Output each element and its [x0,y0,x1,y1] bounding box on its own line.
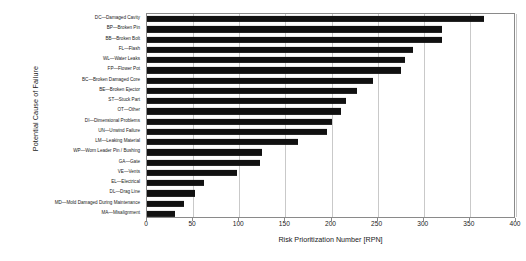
bar-row [147,55,514,65]
bar-row [147,147,514,157]
bar-chart: Potential Cause of Failure DC—Damaged Ca… [0,0,526,261]
y-axis-tick-label: LM—Leaking Material [95,139,140,144]
y-axis-tick-label: WL—Water Leaks [103,57,140,62]
bar-row [147,137,514,147]
x-axis-tick-label: 400 [495,220,526,227]
x-axis-tick-label: 350 [449,220,489,227]
bar-row [147,65,514,75]
bar-row [147,24,514,34]
y-axis-tick-label: FP—Flower Pot [108,67,140,72]
bar [147,78,373,84]
bar [147,57,405,63]
y-axis-tick-label: EL—Electrical [111,180,140,185]
y-axis-tick-label: VE—Vents [118,170,140,175]
bar-row [147,127,514,137]
bar [147,129,327,135]
y-axis-tick-label: DC—Damaged Cavity [95,16,140,21]
gridline [516,14,517,217]
y-axis-tick-labels: DC—Damaged CavityBP—Broken PinBB—Broken … [0,13,144,218]
y-axis-tick-label: GA—Gate [119,159,140,164]
y-axis-tick-label: UN—Unwind Failure [98,129,140,134]
y-axis-tick-label: DL—Drag Line [110,190,140,195]
x-axis-tick-label: 300 [403,220,443,227]
bar-row [147,168,514,178]
bar [147,201,184,207]
y-axis-tick-label: BE—Broken Ejector [99,88,140,93]
y-axis-tick-label: OT—Other [118,108,140,113]
y-axis-tick-label: MD—Mold Damaged During Maintenance [55,200,140,205]
y-axis-tick-label: FL—Flash [119,47,140,52]
x-axis-tick-label: 150 [264,220,304,227]
x-axis-tick-label: 100 [218,220,258,227]
y-axis-tick-label: WP—Worn Leader Pin / Bushing [73,149,140,154]
bar-row [147,35,514,45]
bar-row [147,86,514,96]
bar-series [147,14,514,217]
y-axis-tick-label: BP—Broken Pin [107,26,140,31]
bar [147,211,175,217]
bar-row [147,45,514,55]
bar [147,67,401,73]
y-axis-tick-label: BC—Broken Damaged Core [82,77,140,82]
y-axis-tick-label: BB—Broken Bolt [106,36,140,41]
bar-row [147,178,514,188]
bar-row [147,158,514,168]
bar [147,139,298,145]
bar-row [147,96,514,106]
plot-area [146,13,515,218]
y-axis-tick-label: MA—Misalignment [101,211,140,216]
bar [147,170,237,176]
bar [147,26,442,32]
bar [147,160,260,166]
bar-row [147,14,514,24]
y-axis-tick-label: ST—Stuck Part [108,98,140,103]
x-axis-tick-label: 250 [357,220,397,227]
bar-row [147,188,514,198]
bar [147,88,357,94]
bar-row [147,117,514,127]
bar-row [147,76,514,86]
y-axis-tick-label: DI—Dimensional Problems [85,118,140,123]
x-axis-tick-label: 200 [311,220,351,227]
bar [147,149,262,155]
bar [147,37,442,43]
bar-row [147,106,514,116]
bar [147,190,195,196]
bar [147,108,341,114]
bar [147,119,332,125]
bar [147,180,204,186]
x-axis-tick-label: 50 [172,220,212,227]
bar-row [147,199,514,209]
bar [147,98,346,104]
bar [147,47,413,53]
x-axis-tick-label: 0 [126,220,166,227]
bar [147,16,484,22]
x-axis-title: Risk Prioritization Number [RPN] [146,235,515,244]
